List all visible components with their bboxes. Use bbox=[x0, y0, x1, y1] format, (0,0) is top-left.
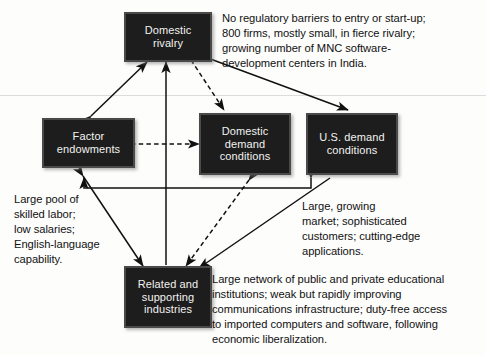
note-demand-conditions: Large, growing market; sophisticated cus… bbox=[302, 199, 478, 259]
node-factor-endowments[interactable]: Factor endowments bbox=[42, 118, 135, 168]
node-domestic-rivalry[interactable]: Domestic rivalry bbox=[124, 12, 212, 62]
link-domestic-rivalry-to-domestic-demand bbox=[191, 60, 224, 110]
node-related-supporting-industries-label: Related and supporting industries bbox=[126, 278, 210, 317]
node-us-demand-conditions-label: U.S. demand conditions bbox=[308, 131, 396, 157]
link-domestic-demand-to-related-supporting bbox=[186, 180, 249, 266]
node-related-supporting-industries[interactable]: Related and supporting industries bbox=[124, 266, 212, 328]
node-domestic-demand-conditions[interactable]: Domestic demand conditions bbox=[199, 113, 291, 175]
node-factor-endowments-label: Factor endowments bbox=[44, 130, 133, 156]
node-domestic-demand-conditions-label: Domestic demand conditions bbox=[201, 125, 289, 164]
note-related-supporting-industries: Large network of public and private educ… bbox=[212, 272, 480, 346]
node-us-demand-conditions[interactable]: U.S. demand conditions bbox=[306, 113, 398, 175]
note-factor-endowments: Large pool of skilled labor; low salarie… bbox=[14, 192, 134, 266]
node-domestic-rivalry-label: Domestic rivalry bbox=[126, 24, 210, 50]
link-factor-endowments-to-domestic-rivalry bbox=[91, 62, 147, 116]
link-us-demand-to-factor-endowments-elbow bbox=[84, 178, 311, 188]
diagram-canvas: Domestic demand (dashed) --> Domestic ri… bbox=[0, 0, 486, 355]
note-domestic-rivalry: No regulatory barriers to entry or start… bbox=[222, 11, 484, 71]
